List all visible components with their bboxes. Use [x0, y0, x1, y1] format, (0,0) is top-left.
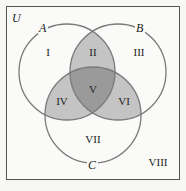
set-label-A: A — [38, 21, 47, 35]
region-label-VII: VII — [85, 133, 101, 145]
set-label-C: C — [88, 158, 97, 172]
region-label-II: II — [89, 46, 97, 58]
region-label-VIII: VIII — [149, 156, 168, 168]
region-label-III: III — [134, 46, 145, 58]
region-label-VI: VI — [118, 95, 130, 107]
venn-diagram: U A B C I II III IV V VI VII VIII — [0, 0, 186, 191]
region-label-I: I — [46, 46, 50, 58]
region-label-IV: IV — [56, 95, 68, 107]
region-label-V: V — [89, 83, 97, 95]
set-label-B: B — [136, 21, 144, 35]
universe-label: U — [12, 11, 22, 25]
